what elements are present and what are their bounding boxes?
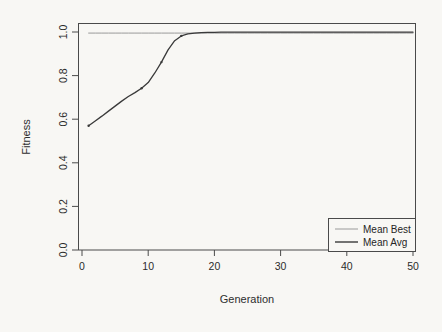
legend-label-mean-avg: Mean Avg (363, 237, 407, 248)
x-tick-label: 50 (407, 260, 419, 272)
data-point-marker (140, 87, 142, 89)
x-tick-label: 20 (209, 260, 221, 272)
legend-label-mean-best: Mean Best (363, 224, 411, 235)
y-tick-label: 0.2 (57, 199, 69, 214)
y-axis-title: Fitness (20, 119, 32, 155)
x-axis-title: Generation (220, 293, 274, 305)
legend[interactable]: Mean Best Mean Avg (329, 219, 416, 252)
y-tick-label: 1.0 (57, 25, 69, 40)
x-tick-label: 30 (275, 260, 287, 272)
data-point-marker (180, 35, 182, 37)
data-point-marker (160, 61, 162, 63)
x-tick-label: 10 (142, 260, 154, 272)
y-tick-label: 0.8 (57, 68, 69, 83)
data-point-marker (87, 125, 89, 127)
x-tick-label: 0 (79, 260, 85, 272)
x-tick-label: 40 (341, 260, 353, 272)
y-tick-label: 0.6 (57, 112, 69, 127)
y-tick-label: 0.4 (57, 155, 69, 170)
fitness-vs-generation-line-chart: 01020304050 0.00.20.40.60.81.0 Generatio… (0, 0, 442, 332)
y-tick-label: 0.0 (57, 243, 69, 258)
chart-container: 01020304050 0.00.20.40.60.81.0 Generatio… (0, 0, 442, 332)
